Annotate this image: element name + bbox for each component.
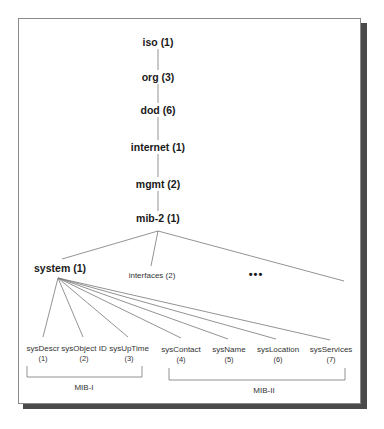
leaf-sysuptime: sysUpTime — [109, 344, 149, 353]
leaf-sysname: sysName — [212, 345, 245, 354]
leaf-sysdescr-number: (1) — [38, 354, 47, 363]
leaf-sysobjectid-number: (2) — [79, 354, 88, 363]
leaf-sysname-number: (5) — [224, 355, 233, 364]
leaf-syslocation: sysLocation — [257, 345, 299, 354]
leaf-syscontact-number: (4) — [176, 355, 185, 364]
group-label-mib-i: MIB-I — [74, 383, 93, 392]
edge-mib2-interfaces — [151, 231, 158, 266]
ellipsis-more-nodes: ••• — [249, 268, 264, 280]
node-interfaces: interfaces (2) — [129, 271, 176, 280]
system-fanout — [43, 278, 330, 340]
leaf-syscontact: sysContact — [161, 345, 201, 354]
leaf-syslocation-number: (6) — [273, 355, 282, 364]
leaf-sysdescr: sysDescr — [27, 344, 60, 353]
node-dod: dod (6) — [141, 104, 176, 116]
bracket-mib-ii — [169, 368, 345, 380]
tree-connectors — [0, 0, 384, 429]
leaf-sysuptime-number: (3) — [124, 354, 133, 363]
edge-mib2-system — [62, 231, 158, 259]
node-org: org (3) — [142, 71, 175, 83]
node-mgmt: mgmt (2) — [136, 178, 180, 190]
leaf-sysservices-number: (7) — [326, 355, 335, 364]
node-system: system (1) — [34, 262, 86, 274]
bracket-mib-i — [27, 366, 142, 377]
leaf-sysobjectid: sysObject ID — [61, 344, 106, 353]
leaf-sysservices: sysServices — [310, 345, 353, 354]
node-mib-2: mib-2 (1) — [136, 212, 180, 224]
node-internet: internet (1) — [131, 141, 185, 153]
group-label-mib-ii: MIB-II — [253, 386, 274, 395]
node-iso: iso (1) — [143, 36, 174, 48]
